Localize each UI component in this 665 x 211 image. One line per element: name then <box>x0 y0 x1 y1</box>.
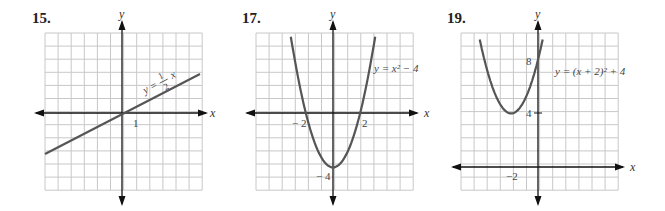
parabola-shifted <box>480 39 543 113</box>
tick-label-y-4: 4 <box>526 107 532 119</box>
y-axis-down-arrow-icon <box>535 196 542 206</box>
x-axis-label: x <box>629 160 636 174</box>
y-axis-label: y <box>534 7 541 21</box>
graph-panel-19: 19. x y −2 4 8 y = (x + 2)² + 4 <box>0 0 665 211</box>
tick-label-y-8: 8 <box>526 55 532 67</box>
y-axis-up-arrow-icon <box>535 20 542 30</box>
x-axis-right-arrow-icon <box>615 164 625 171</box>
tick-label-x-neg2: −2 <box>506 170 518 182</box>
equation-label: y = (x + 2)² + 4 <box>554 65 626 78</box>
graph-19-plot: x y −2 4 8 y = (x + 2)² + 4 <box>0 0 665 211</box>
x-axis-left-arrow-icon <box>451 164 461 171</box>
